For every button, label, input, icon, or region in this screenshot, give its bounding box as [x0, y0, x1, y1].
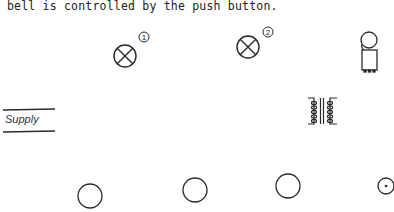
lamp-number-badge: 2 [263, 27, 273, 37]
terminal-circle-icon [78, 184, 102, 208]
supply-label: Supply [5, 113, 39, 125]
lamp-2-number: 2 [266, 28, 271, 37]
terminal-circle-icon [183, 178, 207, 202]
lamp-icon [237, 36, 259, 58]
transformer[interactable] [308, 98, 337, 124]
lamp-2[interactable]: 2 [237, 27, 273, 58]
lamp-1-number: 1 [142, 33, 147, 42]
bell-icon [361, 32, 377, 72]
wiring-diagram: 1 2 [0, 0, 394, 212]
terminal-circle-icon [276, 174, 300, 198]
terminal-1[interactable] [78, 184, 102, 208]
lamp-icon [114, 45, 136, 67]
push-button-icon [378, 178, 394, 194]
terminal-2[interactable] [183, 178, 207, 202]
bell[interactable] [361, 32, 377, 72]
terminal-3[interactable] [276, 174, 300, 198]
lamp-1[interactable]: 1 [114, 32, 149, 67]
lamp-number-badge: 1 [139, 32, 149, 42]
transformer-icon [308, 98, 337, 124]
supply-line-bottom [3, 131, 55, 132]
push-button[interactable] [378, 178, 394, 194]
supply-line-top [3, 109, 55, 110]
